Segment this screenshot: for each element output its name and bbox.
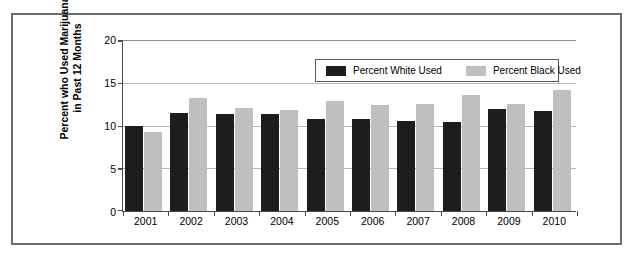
legend-item-black: Percent Black Used <box>466 65 581 76</box>
bar-white-2007 <box>397 121 415 211</box>
plot-area: Percent White Used Percent Black Used 20… <box>122 40 576 212</box>
legend-label-white: Percent White Used <box>353 65 442 76</box>
bar-white-2003 <box>216 114 234 211</box>
bar-black-2006 <box>371 105 389 211</box>
bar-black-2003 <box>235 108 253 211</box>
bar-black-2002 <box>189 98 207 211</box>
y-tick-label-5: 5 <box>110 164 116 175</box>
x-tick-mark-end <box>577 211 578 216</box>
y-tick-label-10: 10 <box>104 121 116 132</box>
x-tick-label-2006: 2006 <box>351 216 395 227</box>
bar-group <box>123 40 168 211</box>
bar-white-2006 <box>352 119 370 211</box>
bar-black-2009 <box>507 104 525 211</box>
legend-swatch-black <box>466 66 486 76</box>
y-axis-title-line1: Percent who Used Marijuana <box>58 0 70 139</box>
bar-white-2009 <box>488 109 506 211</box>
bar-group <box>259 40 304 211</box>
bar-black-2010 <box>553 90 571 211</box>
bar-black-2008 <box>462 95 480 211</box>
x-tick-label-2001: 2001 <box>124 216 168 227</box>
x-tick-label-2004: 2004 <box>260 216 304 227</box>
chart-figure: Percent who Used Marijuana in Past 12 Mo… <box>11 13 622 245</box>
chart-legend: Percent White Used Percent Black Used <box>315 59 559 82</box>
bar-group <box>168 40 213 211</box>
x-tick-label-2010: 2010 <box>532 216 576 227</box>
bar-white-2005 <box>307 119 325 211</box>
bar-black-2007 <box>416 104 434 211</box>
bar-white-2002 <box>170 113 188 211</box>
bar-white-2010 <box>534 111 552 211</box>
y-tick-label-15: 15 <box>104 78 116 89</box>
legend-swatch-white <box>326 66 346 76</box>
bar-white-2004 <box>261 114 279 211</box>
bar-white-2001 <box>125 126 143 211</box>
bar-black-2005 <box>326 101 344 211</box>
x-tick-label-2005: 2005 <box>305 216 349 227</box>
y-tick-label-0: 0 <box>110 207 116 218</box>
x-tick-label-2008: 2008 <box>442 216 486 227</box>
x-tick-label-2003: 2003 <box>215 216 259 227</box>
bar-black-2001 <box>144 132 162 211</box>
y-tick-label-20: 20 <box>104 35 116 46</box>
x-tick-label-2007: 2007 <box>396 216 440 227</box>
x-tick-label-2002: 2002 <box>169 216 213 227</box>
bar-black-2004 <box>280 110 298 211</box>
bar-group <box>214 40 259 211</box>
legend-item-white: Percent White Used <box>326 65 442 76</box>
y-axis-tick-labels: 20 15 10 5 0 <box>78 40 116 212</box>
legend-label-black: Percent Black Used <box>493 65 581 76</box>
x-tick-label-2009: 2009 <box>487 216 531 227</box>
bar-white-2008 <box>443 122 461 211</box>
